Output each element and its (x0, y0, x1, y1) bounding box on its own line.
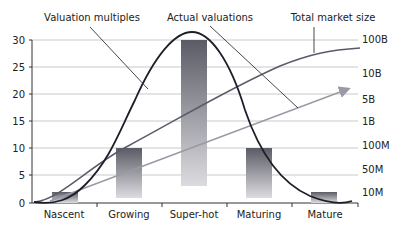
svg-text:Super-hot: Super-hot (170, 209, 219, 220)
svg-text:1B: 1B (362, 116, 375, 127)
svg-text:100B: 100B (362, 34, 388, 45)
bar-growing (116, 148, 142, 198)
svg-text:0: 0 (19, 198, 25, 209)
svg-text:10M: 10M (362, 187, 383, 198)
svg-text:Growing: Growing (108, 209, 149, 220)
label-total-market-size: Total market size (290, 12, 376, 23)
annotations: Valuation multiples Actual valuations To… (44, 12, 375, 23)
svg-text:10B: 10B (362, 68, 382, 79)
svg-text:30: 30 (12, 35, 25, 46)
svg-text:Nascent: Nascent (44, 209, 85, 220)
chart: 30 25 20 15 10 5 0 100B 10B 5B 1B 100M 5… (0, 0, 395, 236)
bar-super-hot (181, 40, 207, 186)
svg-text:10: 10 (12, 143, 25, 154)
svg-text:5B: 5B (362, 94, 375, 105)
y2-axis-labels: 100B 10B 5B 1B 100M 50M 10M (362, 34, 390, 198)
y-axis-labels: 30 25 20 15 10 5 0 (12, 35, 25, 209)
svg-text:25: 25 (12, 62, 25, 73)
bar-maturing (246, 148, 272, 198)
svg-text:20: 20 (12, 89, 25, 100)
label-valuation-multiples: Valuation multiples (44, 12, 140, 23)
svg-text:Mature: Mature (307, 209, 342, 220)
svg-text:5: 5 (19, 170, 25, 181)
svg-text:Maturing: Maturing (237, 209, 282, 220)
svg-text:50M: 50M (362, 164, 383, 175)
svg-text:100M: 100M (362, 140, 390, 151)
label-actual-valuations: Actual valuations (167, 12, 253, 23)
x-axis-labels: Nascent Growing Super-hot Maturing Matur… (44, 209, 343, 220)
svg-text:15: 15 (12, 116, 25, 127)
